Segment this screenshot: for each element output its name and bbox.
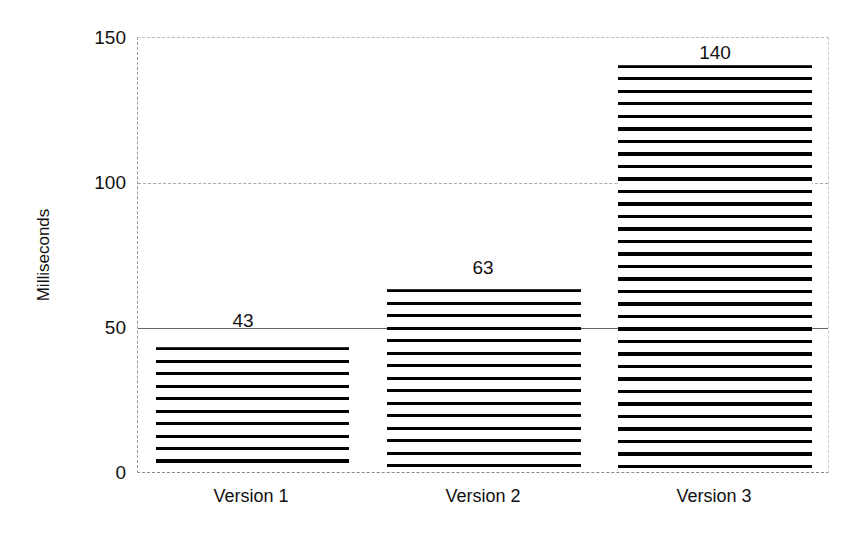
y-tick-150: 150 <box>66 28 126 48</box>
data-label-version-3: 140 <box>655 42 775 64</box>
x-label-version-3: Version 3 <box>614 486 814 507</box>
y-tick-100: 100 <box>66 173 126 193</box>
data-label-version-1: 43 <box>183 310 303 332</box>
bar-version-2 <box>387 289 581 472</box>
bar-version-3 <box>618 65 812 472</box>
data-label-version-2: 63 <box>423 257 543 279</box>
plot-area <box>137 37 829 473</box>
y-tick-50: 50 <box>66 318 126 338</box>
x-label-version-1: Version 1 <box>151 486 351 507</box>
y-axis-label: Milliseconds <box>34 209 54 302</box>
x-label-version-2: Version 2 <box>383 486 583 507</box>
y-tick-0: 0 <box>66 463 126 483</box>
bar-version-1 <box>156 347 349 472</box>
